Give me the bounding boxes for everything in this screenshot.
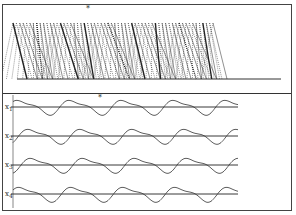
traces-plot [3, 93, 293, 210]
trace-label-x3: x3 [5, 161, 13, 170]
figure-frame: * * x1 x2 x3 x4 [2, 4, 292, 211]
stick-figure-plot [3, 5, 293, 93]
trace-label-x2: x2 [5, 132, 13, 141]
stick-diagram-panel: * [3, 5, 291, 94]
trace-label-x4: x4 [5, 190, 13, 199]
trace-label-x1: x1 [5, 103, 13, 112]
traces-panel: * x1 x2 x3 x4 [3, 93, 291, 210]
